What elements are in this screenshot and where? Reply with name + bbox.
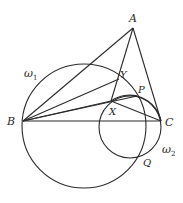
label-omega-1: ω1 [24, 67, 37, 82]
label-point-x: X [108, 106, 117, 117]
arc-x-p-c [111, 95, 161, 121]
geometry-diagram: A B C X Y P Q ω1 ω2 [0, 0, 183, 203]
segments [23, 28, 161, 121]
circle-omega-1 [22, 64, 146, 188]
label-point-p: P [137, 84, 145, 95]
segment-a-x [111, 28, 133, 101]
segment-a-c [133, 28, 161, 121]
segment-x-c [111, 101, 161, 121]
label-point-y: Y [120, 69, 128, 80]
label-point-b: B [6, 115, 15, 128]
label-point-q: Q [143, 157, 151, 168]
segment-b-x [23, 101, 111, 121]
label-point-c: C [165, 116, 174, 129]
segment-a-b [23, 28, 133, 121]
label-omega-2: ω2 [162, 143, 175, 158]
label-point-a: A [128, 12, 137, 25]
